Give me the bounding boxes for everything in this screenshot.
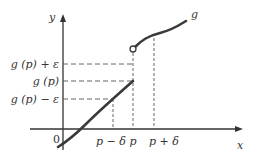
x-tick-mid: p (129, 135, 136, 148)
y-axis-arrow-icon (60, 14, 66, 22)
x-tick-right: p + δ (149, 135, 179, 148)
curve-right-branch (135, 21, 186, 47)
continuity-diagram: y x 0 g g (p) + ε g (p) g (p) − ε p − δ … (0, 0, 257, 161)
origin-label: 0 (53, 133, 60, 146)
x-axis-arrow-icon (235, 126, 243, 132)
y-tick-upper: g (p) + ε (11, 58, 59, 71)
y-axis-label: y (48, 11, 56, 24)
x-axis-label: x (237, 139, 244, 152)
curve-label: g (191, 8, 198, 21)
y-tick-lower: g (p) − ε (11, 93, 59, 106)
x-tick-left: p − δ (96, 135, 126, 148)
open-circle-discontinuity (130, 46, 136, 52)
y-tick-mid: g (p) (33, 75, 59, 88)
